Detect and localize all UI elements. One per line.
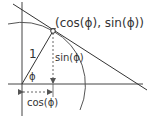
point-label: (cos(ϕ), sin(ϕ)) xyxy=(55,16,144,30)
radius-line xyxy=(22,31,53,84)
angle-label: ϕ xyxy=(29,71,36,82)
sin-label: sin(ϕ) xyxy=(55,52,84,63)
hypotenuse-label: 1 xyxy=(29,47,37,61)
cos-label: cos(ϕ) xyxy=(27,97,58,108)
unit-circle-diagram: (cos(ϕ), sin(ϕ)) 1 ϕ sin(ϕ) cos(ϕ) xyxy=(0,0,154,120)
